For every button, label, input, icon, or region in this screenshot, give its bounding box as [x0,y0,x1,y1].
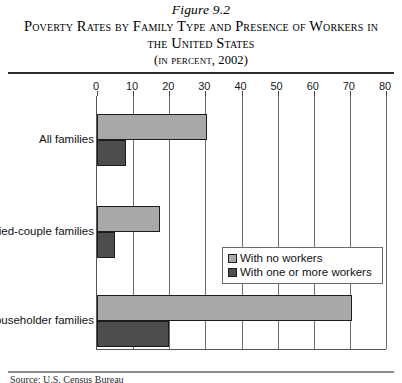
source-note: Source: U.S. Census Bureau [10,374,124,383]
chart-container: 01020304050607080 All familiesIn married… [0,74,402,364]
tickmark-20 [169,91,170,96]
bar-2-1 [97,321,169,347]
figure-header: Figure 9.2 Poverty Rates by Family Type … [0,0,402,68]
figure-subtitle: (in percent, 2002) [14,52,388,68]
x-tick-label-0: 0 [81,80,111,93]
x-tick-label-80: 80 [370,80,400,93]
bar-0-0 [97,114,207,140]
legend-label-one-or-more-workers: With one or more workers [240,266,372,279]
tickmark-10 [133,91,134,96]
legend-swatch-icon-one-or-more-workers [228,268,237,277]
bar-1-1 [97,232,115,258]
legend-item-one-or-more-workers: With one or more workers [228,266,378,279]
bar-2-0 [97,295,352,321]
legend-label-no-workers: With no workers [240,252,322,265]
legend-item-no-workers: With no workers [228,252,378,265]
figure-title: Poverty Rates by Family Type and Presenc… [14,18,388,51]
plot-area [96,96,386,350]
figure-number: Figure 9.2 [14,2,388,18]
tickmark-60 [314,91,315,96]
tickmark-70 [350,91,351,96]
chart-legend: With no workers With one or more workers [222,247,383,284]
category-label-1: In married-couple families [0,225,94,239]
bar-0-1 [97,140,126,166]
tickmark-30 [205,91,206,96]
tickmark-50 [278,91,279,96]
x-tick-label-10: 10 [117,80,147,93]
tickmark-40 [242,91,243,96]
x-tick-label-60: 60 [298,80,328,93]
tickmark-0 [97,91,98,96]
x-tick-label-50: 50 [262,80,292,93]
category-label-2: In female-householder families [0,314,94,328]
bar-1-0 [97,206,160,232]
gridline-80 [386,96,387,349]
x-tick-label-40: 40 [226,80,256,93]
category-label-0: All families [0,133,94,147]
x-axis-tick-labels: 01020304050607080 [0,80,402,94]
x-tick-label-70: 70 [334,80,364,93]
x-tick-label-20: 20 [153,80,183,93]
x-tick-label-30: 30 [189,80,219,93]
footer-divider [8,371,394,373]
tickmark-80 [386,91,387,96]
legend-swatch-icon-no-workers [228,254,237,263]
